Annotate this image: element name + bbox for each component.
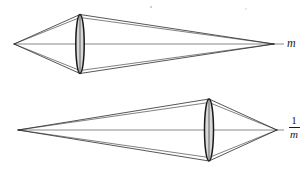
bottom-magnification-label: 1 m bbox=[285, 115, 303, 140]
bottom-upper-inner-ray bbox=[18, 103, 277, 131]
bottom-lower-inner-ray bbox=[18, 130, 277, 158]
fraction-numerator: 1 bbox=[285, 115, 303, 127]
bottom-diagram bbox=[18, 99, 284, 161]
top-diagram bbox=[14, 15, 284, 74]
scan-speck bbox=[245, 8, 246, 9]
top-lower-marginal-ray bbox=[14, 44, 274, 74]
scan-speck bbox=[150, 6, 152, 8]
fraction-denominator: m bbox=[285, 129, 303, 140]
top-lower-inner-ray bbox=[14, 44, 274, 71]
ray-diagram-figure bbox=[0, 0, 307, 172]
top-upper-inner-ray bbox=[14, 18, 274, 45]
top-magnification-label: m bbox=[287, 37, 296, 49]
top-upper-marginal-ray bbox=[14, 15, 274, 45]
